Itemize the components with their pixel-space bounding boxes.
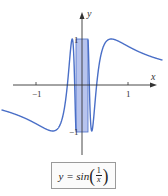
fraction: 1 x: [96, 167, 102, 184]
x-tick-label-neg1: −1: [32, 89, 42, 99]
right-paren: ): [103, 166, 109, 185]
x-axis-label: x: [150, 71, 156, 82]
y-axis-arrow-icon: [80, 12, 85, 19]
formula-caption: y = sin ( 1 x ): [51, 162, 116, 189]
left-paren: (: [89, 166, 95, 185]
x-tick-label-pos1: 1: [126, 89, 131, 99]
y-axis-label: y: [86, 8, 92, 19]
formula-lhs: y = sin: [59, 170, 90, 182]
y-tick-label-neg1: −1: [69, 127, 79, 137]
sine-reciprocal-plot: −1 1 1 −1 x y: [0, 0, 168, 160]
x-axis-arrow-icon: [150, 83, 157, 88]
y-tick-label-pos1: 1: [74, 35, 79, 45]
fraction-denominator: x: [97, 176, 101, 184]
